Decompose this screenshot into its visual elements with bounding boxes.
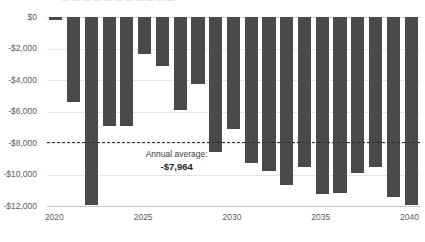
average-reference-line [47, 142, 420, 143]
x-axis-tick-label: 2040 [400, 212, 419, 222]
y-axis-tick-label: -$4,000 [0, 76, 37, 85]
bar [369, 17, 382, 167]
y-axis-tick-label: -$2,000 [0, 44, 37, 53]
y-axis-tick-label: -$8,000 [0, 139, 37, 148]
x-axis-line [47, 206, 420, 207]
y-axis-tick-label: -$6,000 [0, 107, 37, 116]
plot-area: $0-$2,000-$4,000-$6,000-$8,000-$10,000-$… [47, 17, 420, 206]
bar [138, 17, 151, 54]
bar [405, 17, 418, 205]
average-caption: Annual average: [136, 149, 218, 160]
bar [156, 17, 169, 66]
x-axis-tick-label: 2020 [45, 212, 64, 222]
x-axis-tick-label: 2025 [134, 212, 153, 222]
bar [49, 17, 62, 20]
bar [227, 17, 240, 129]
average-value: -$7,964 [136, 161, 218, 173]
chart-title-text: — — — — — — — — — — — [62, 0, 174, 4]
bar [298, 17, 311, 167]
bar [351, 17, 364, 173]
bar [280, 17, 293, 185]
bar-chart: — — — — — — — — — — — $0-$2,000-$4,000-$… [0, 0, 425, 242]
bar [262, 17, 275, 171]
average-annotation: Annual average: -$7,964 [136, 149, 218, 173]
bar [191, 17, 204, 84]
bar [67, 17, 80, 102]
bar-series [47, 17, 420, 206]
bar [316, 17, 329, 194]
bar [387, 17, 400, 197]
y-axis-tick-label: $0 [0, 13, 37, 22]
x-axis-tick-label: 2035 [311, 212, 330, 222]
x-axis-tick-label: 2030 [223, 212, 242, 222]
y-axis-tick-label: -$12,000 [0, 202, 37, 211]
bar [209, 17, 222, 152]
y-axis-tick-label: -$10,000 [0, 170, 37, 179]
bar [103, 17, 116, 126]
bar [333, 17, 346, 193]
bar [174, 17, 187, 110]
clipped-chart-title: — — — — — — — — — — — [0, 0, 425, 8]
bar [120, 17, 133, 126]
bar [85, 17, 98, 205]
